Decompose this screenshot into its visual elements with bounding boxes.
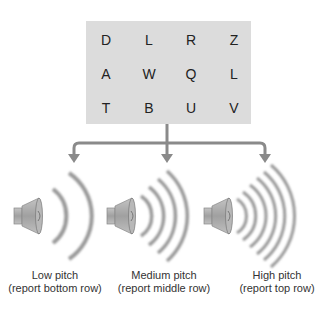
high-pitch-waves xyxy=(237,165,295,267)
low-pitch-caption: Low pitch (report bottom row) xyxy=(0,269,115,295)
low-pitch-subtitle: (report bottom row) xyxy=(0,282,115,295)
medium-pitch-speaker-icon xyxy=(107,198,136,234)
medium-pitch-title: Medium pitch xyxy=(104,269,224,282)
arrow-heads xyxy=(68,154,271,163)
high-pitch-title: High pitch xyxy=(217,269,329,282)
low-pitch-title: Low pitch xyxy=(0,269,115,282)
high-pitch-speaker-icon xyxy=(204,198,233,234)
arrow-connector xyxy=(74,124,265,157)
high-pitch-subtitle: (report top row) xyxy=(217,282,329,295)
low-pitch-speaker-icon xyxy=(14,198,43,234)
medium-pitch-caption: Medium pitch (report middle row) xyxy=(104,269,224,295)
medium-pitch-waves xyxy=(141,171,187,261)
tone-diagram xyxy=(0,0,329,309)
high-pitch-caption: High pitch (report top row) xyxy=(217,269,329,295)
medium-pitch-subtitle: (report middle row) xyxy=(104,282,224,295)
low-pitch-waves xyxy=(53,173,92,259)
